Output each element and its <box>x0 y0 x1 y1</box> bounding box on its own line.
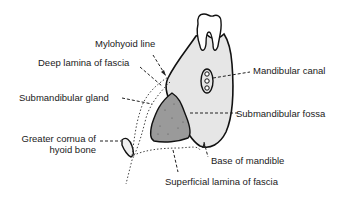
label-submandibular-gland: Submandibular gland <box>19 92 109 103</box>
label-superficial-lamina: Superficial lamina of fascia <box>165 176 278 187</box>
label-mandibular-canal: Mandibular canal <box>253 65 325 76</box>
anatomy-diagram: Mylohyoid line Deep lamina of fascia Sub… <box>0 0 342 201</box>
label-deep-lamina: Deep lamina of fascia <box>38 57 129 68</box>
label-base-of-mandible: Base of mandible <box>211 155 284 166</box>
label-greater-cornua: Greater cornua of hyoid bone <box>12 133 96 155</box>
label-greater-cornua-line2: hyoid bone <box>50 144 96 155</box>
label-mylohyoid-line: Mylohyoid line <box>95 38 155 49</box>
label-greater-cornua-line1: Greater cornua of <box>22 133 96 144</box>
hyoid-cornua-shape <box>122 138 133 157</box>
label-submandibular-fossa: Submandibular fossa <box>236 108 325 119</box>
